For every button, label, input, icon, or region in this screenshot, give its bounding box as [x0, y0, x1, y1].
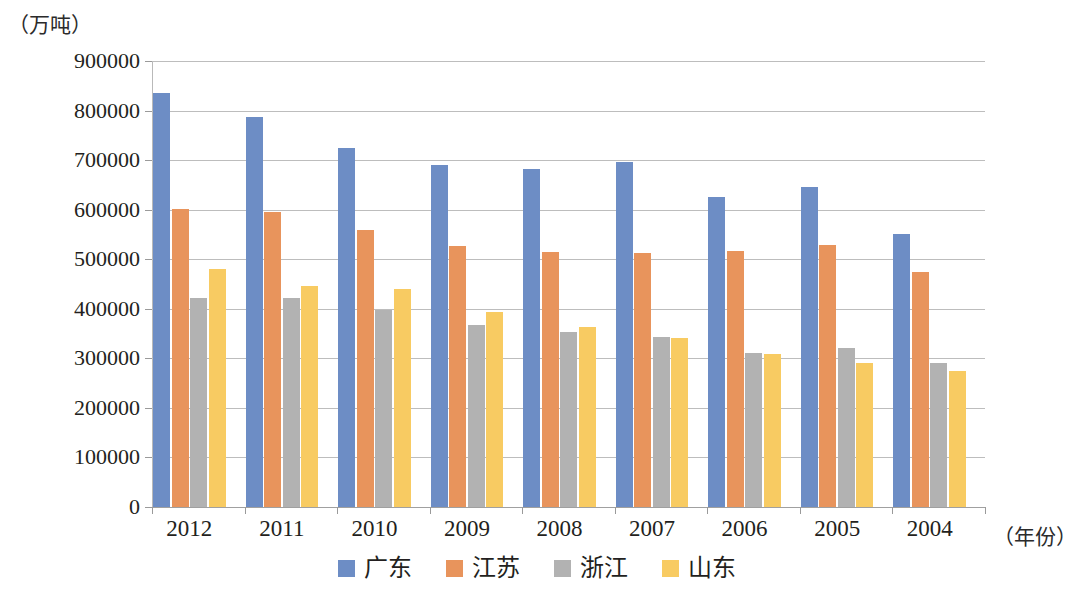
bar[interactable]	[912, 272, 929, 507]
bar[interactable]	[431, 165, 448, 507]
gridline	[152, 507, 985, 508]
bar-group	[153, 61, 226, 507]
y-tick-label: 900000	[0, 50, 140, 72]
bar[interactable]	[930, 363, 947, 507]
bar[interactable]	[542, 252, 559, 507]
bar-chart: （万吨） 90000080000070000060000050000040000…	[0, 0, 1073, 591]
legend-label: 山东	[688, 556, 736, 580]
legend-item[interactable]: 浙江	[554, 556, 628, 580]
bar-group	[616, 61, 689, 507]
bar-group	[893, 61, 966, 507]
bar[interactable]	[523, 169, 540, 507]
legend-label: 广东	[364, 556, 412, 580]
bar-group	[246, 61, 319, 507]
bar[interactable]	[486, 312, 503, 507]
legend-swatch-icon	[662, 560, 679, 577]
x-tick-mark	[337, 507, 338, 514]
bar-group	[801, 61, 874, 507]
bar[interactable]	[893, 234, 910, 507]
bar[interactable]	[468, 325, 485, 507]
bar[interactable]	[357, 230, 374, 507]
legend-swatch-icon	[554, 560, 571, 577]
plot-area	[152, 61, 985, 507]
x-tick-mark	[800, 507, 801, 514]
bar[interactable]	[671, 338, 688, 507]
y-tick-mark	[145, 111, 152, 112]
bar-group	[431, 61, 504, 507]
y-tick-mark	[145, 457, 152, 458]
x-tick-mark	[615, 507, 616, 514]
x-tick-mark	[707, 507, 708, 514]
bar[interactable]	[172, 209, 189, 507]
bar[interactable]	[708, 197, 725, 507]
bar[interactable]	[153, 93, 170, 507]
y-tick-label: 100000	[0, 446, 140, 468]
bar[interactable]	[338, 148, 355, 507]
y-tick-mark	[145, 309, 152, 310]
bar[interactable]	[579, 327, 596, 507]
bar[interactable]	[264, 212, 281, 507]
bar[interactable]	[634, 253, 651, 507]
y-tick-mark	[145, 507, 152, 508]
bar[interactable]	[949, 371, 966, 507]
legend-label: 江苏	[472, 556, 520, 580]
bar[interactable]	[283, 298, 300, 507]
y-tick-label: 200000	[0, 397, 140, 419]
y-tick-label: 500000	[0, 248, 140, 270]
x-tick-mark	[430, 507, 431, 514]
bar[interactable]	[856, 363, 873, 507]
bar[interactable]	[764, 354, 781, 507]
y-tick-mark	[145, 408, 152, 409]
y-tick-mark	[145, 358, 152, 359]
x-tick-mark	[152, 507, 153, 514]
x-tick-mark	[245, 507, 246, 514]
bar[interactable]	[653, 337, 670, 507]
y-tick-label: 300000	[0, 347, 140, 369]
bar-group	[523, 61, 596, 507]
bar[interactable]	[801, 187, 818, 507]
x-tick-mark	[522, 507, 523, 514]
legend-swatch-icon	[338, 560, 355, 577]
bar[interactable]	[190, 298, 207, 507]
bar[interactable]	[727, 251, 744, 507]
legend-item[interactable]: 广东	[338, 556, 412, 580]
legend-label: 浙江	[580, 556, 628, 580]
y-tick-mark	[145, 160, 152, 161]
chart-legend: 广东江苏浙江山东	[0, 556, 1073, 580]
x-tick-mark	[892, 507, 893, 514]
bar[interactable]	[246, 117, 263, 507]
y-tick-mark	[145, 210, 152, 211]
bar-group	[708, 61, 781, 507]
bar[interactable]	[394, 289, 411, 507]
bar[interactable]	[375, 310, 392, 507]
y-tick-label: 700000	[0, 149, 140, 171]
y-tick-mark	[145, 61, 152, 62]
y-tick-label: 600000	[0, 199, 140, 221]
bar[interactable]	[449, 246, 466, 507]
bar-group	[338, 61, 411, 507]
y-tick-label: 800000	[0, 100, 140, 122]
x-axis-unit-label: （年份）	[993, 520, 1073, 550]
bar[interactable]	[560, 332, 577, 507]
x-tick-label: 2004	[870, 516, 990, 542]
bar[interactable]	[301, 286, 318, 507]
y-tick-label: 400000	[0, 298, 140, 320]
bar[interactable]	[819, 245, 836, 507]
x-tick-mark	[985, 507, 986, 514]
y-tick-mark	[145, 259, 152, 260]
bar[interactable]	[209, 269, 226, 507]
y-tick-label: 0	[0, 496, 140, 518]
bar[interactable]	[838, 348, 855, 507]
legend-item[interactable]: 山东	[662, 556, 736, 580]
y-axis-unit-label: （万吨）	[8, 8, 92, 38]
bar[interactable]	[616, 162, 633, 507]
legend-item[interactable]: 江苏	[446, 556, 520, 580]
legend-swatch-icon	[446, 560, 463, 577]
bar[interactable]	[745, 353, 762, 507]
